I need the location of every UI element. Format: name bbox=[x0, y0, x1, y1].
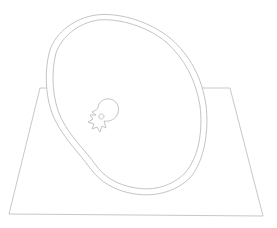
diagram-canvas bbox=[0, 0, 277, 228]
